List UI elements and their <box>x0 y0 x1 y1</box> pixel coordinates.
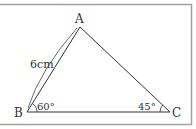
angle-b-label: 60° <box>37 101 55 112</box>
vertex-label-c: C <box>172 106 181 120</box>
angle-c-arc <box>160 105 163 112</box>
triangle-diagram: A B C 6cm 60° 45° <box>0 0 196 129</box>
vertex-label-a: A <box>74 12 84 26</box>
angle-c-label: 45° <box>138 101 156 112</box>
side-ab-length-label: 6cm <box>30 58 54 71</box>
vertex-label-b: B <box>14 106 23 120</box>
diagram-frame: A B C 6cm 60° 45° <box>0 0 196 129</box>
